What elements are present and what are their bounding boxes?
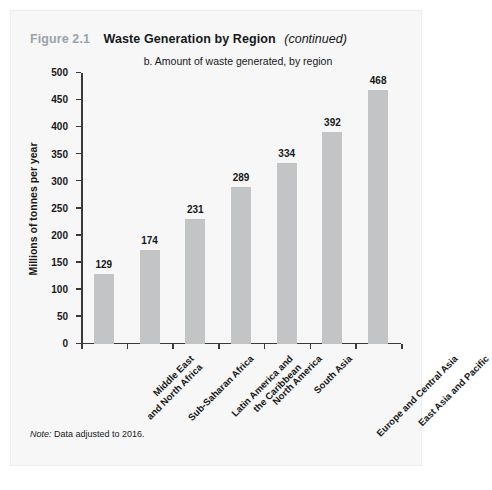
bar[interactable]: 468 [368, 90, 388, 344]
y-axis-tick-label: 150 [51, 256, 68, 267]
x-axis-tick [401, 344, 403, 349]
plot-area: 050100150200250300350400450500 129174231… [81, 73, 401, 344]
y-axis-tick-label: 100 [51, 284, 68, 295]
figure-title: Waste Generation by Region [104, 32, 276, 46]
y-axis-tick: 400 [76, 126, 81, 128]
y-axis-line [81, 73, 83, 344]
figure-panel: Figure 2.1 Waste Generation by Region (c… [10, 10, 422, 466]
y-axis-tick-label: 0 [62, 338, 68, 349]
x-axis-tick [127, 344, 129, 349]
y-axis-tick-label: 450 [51, 94, 68, 105]
bar[interactable]: 289 [231, 187, 251, 344]
y-axis-tick-label: 50 [57, 311, 68, 322]
y-axis-tick: 250 [76, 207, 81, 209]
bar-value-label: 231 [187, 204, 204, 215]
y-axis-tick: 50 [76, 315, 81, 317]
bar-value-label: 334 [278, 148, 295, 159]
y-axis-tick: 100 [76, 288, 81, 290]
y-axis-tick-label: 400 [51, 121, 68, 132]
bar-value-label: 392 [324, 117, 341, 128]
y-axis-tick: 350 [76, 153, 81, 155]
y-axis-title-text: Millions of tonnes per year [27, 142, 39, 275]
y-axis-title: Millions of tonnes per year [25, 73, 41, 344]
x-axis-tick [218, 344, 220, 349]
bar-value-label: 174 [141, 235, 158, 246]
y-axis-tick-label: 200 [51, 229, 68, 240]
bar[interactable]: 392 [322, 132, 342, 344]
y-axis-tick: 450 [76, 99, 81, 101]
bar[interactable]: 174 [140, 250, 160, 344]
figure-note: Note: Data adjusted to 2016. [30, 429, 145, 439]
x-axis-tick [81, 344, 83, 349]
x-axis-tick [172, 344, 174, 349]
bar-value-label: 129 [96, 259, 113, 270]
y-axis-tick-label: 500 [51, 67, 68, 78]
y-axis-tick: 150 [76, 261, 81, 263]
y-axis-tick-label: 300 [51, 175, 68, 186]
note-label: Note: [30, 429, 52, 439]
x-axis-tick [355, 344, 357, 349]
x-axis-tick [264, 344, 266, 349]
bar-value-label: 468 [370, 75, 387, 86]
y-axis-tick-label: 250 [51, 202, 68, 213]
y-axis-tick: 200 [76, 234, 81, 236]
note-text: Data adjusted to 2016. [52, 429, 145, 439]
figure-header: Figure 2.1 Waste Generation by Region (c… [30, 29, 347, 47]
bar-value-label: 289 [233, 172, 250, 183]
x-axis-tick [310, 344, 312, 349]
bar[interactable]: 129 [94, 274, 114, 344]
figure-continued-label: (continued) [284, 32, 347, 46]
y-axis-tick: 500 [76, 72, 81, 74]
y-axis-tick: 300 [76, 180, 81, 182]
figure-number: Figure 2.1 [30, 32, 90, 46]
y-axis-tick-label: 350 [51, 148, 68, 159]
bar[interactable]: 231 [185, 219, 205, 344]
bar[interactable]: 334 [277, 163, 297, 344]
chart-subtitle: b. Amount of waste generated, by region [11, 55, 423, 67]
